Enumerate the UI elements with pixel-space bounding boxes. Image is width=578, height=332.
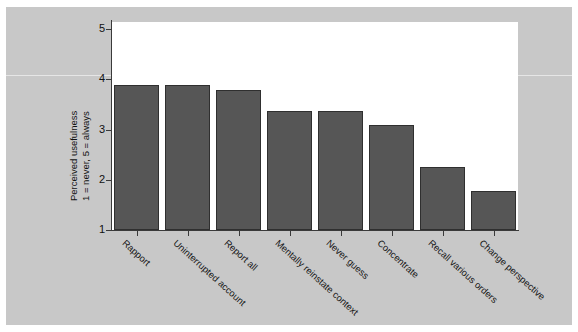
x-tick-label: Report all <box>222 238 259 272</box>
bar <box>267 111 312 230</box>
y-tick-mark <box>106 230 111 231</box>
x-tick-mark <box>341 231 342 236</box>
y-tick-label: 4 <box>79 73 105 84</box>
bar <box>318 111 363 230</box>
y-tick-label: 1 <box>79 224 105 235</box>
bar <box>114 85 159 230</box>
y-tick-label: 3 <box>79 124 105 135</box>
y-axis-line <box>111 20 112 231</box>
bar <box>420 167 465 230</box>
x-tick-label: Never guess <box>324 238 370 281</box>
x-tick-label: Rapport <box>120 238 151 268</box>
bar <box>216 90 261 230</box>
x-tick-mark <box>137 231 138 236</box>
y-tick-label: 5 <box>79 23 105 34</box>
x-tick-label: Concentrate <box>375 238 420 280</box>
y-tick-label: 2 <box>79 174 105 185</box>
x-tick-mark <box>239 231 240 236</box>
x-tick-mark <box>290 231 291 236</box>
x-tick-mark <box>392 231 393 236</box>
y-tick-mark <box>106 130 111 131</box>
x-axis-line <box>111 230 519 231</box>
x-tick-mark <box>494 231 495 236</box>
bar <box>471 191 516 230</box>
bar <box>369 125 414 230</box>
figure-panel: Perceived usefulness 1 = never, 5 = alwa… <box>6 7 572 325</box>
x-tick-mark <box>443 231 444 236</box>
x-tick-mark <box>188 231 189 236</box>
y-axis-title-line1: Perceived usefulness <box>68 111 79 201</box>
y-tick-mark <box>106 180 111 181</box>
bar <box>165 85 210 230</box>
y-tick-mark <box>106 29 111 30</box>
y-tick-mark <box>106 79 111 80</box>
